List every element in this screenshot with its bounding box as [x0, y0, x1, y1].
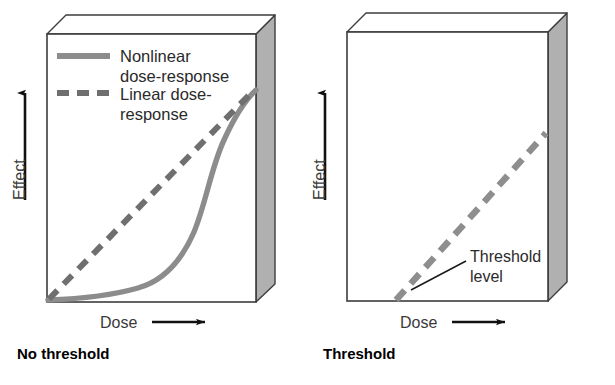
- legend-label-linear-line2: response: [120, 105, 188, 123]
- x-axis-label-right-panel: Dose: [400, 314, 437, 331]
- panel-caption-no-threshold: No threshold: [17, 345, 110, 362]
- panel-threshold: Threshold level Effect Dose: [311, 13, 567, 331]
- x-axis-label-left-panel: Dose: [100, 314, 137, 331]
- box-top-face-left-panel: [47, 15, 275, 34]
- y-axis-label-right-panel: Effect: [311, 159, 328, 200]
- legend-label-nonlinear-line1: Nonlinear: [120, 47, 191, 65]
- legend-label-nonlinear-line2: dose-response: [120, 67, 229, 85]
- y-axis-label-left-panel: Effect: [11, 159, 28, 200]
- panel-caption-threshold: Threshold: [323, 345, 396, 362]
- box-top-face-right-panel: [347, 13, 567, 32]
- threshold-level-label-line1: Threshold: [470, 248, 541, 265]
- panel-no-threshold: Nonlinear dose-response Linear dose- res…: [11, 15, 275, 331]
- box-side-face-right-panel: [548, 13, 567, 301]
- figure-canvas: Nonlinear dose-response Linear dose- res…: [0, 0, 615, 385]
- box-side-face-left-panel: [256, 15, 275, 302]
- legend-label-linear-line1: Linear dose-: [120, 85, 212, 103]
- figure-root: Nonlinear dose-response Linear dose- res…: [0, 0, 615, 385]
- threshold-level-label-line2: level: [470, 268, 503, 285]
